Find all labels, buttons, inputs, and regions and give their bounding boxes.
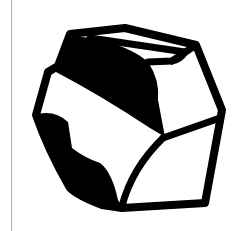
rock-icon-container <box>0 0 240 231</box>
rock-icon <box>0 0 240 231</box>
rock-edge-to-right <box>163 118 220 138</box>
rock-edge-to-bottom <box>122 138 163 206</box>
rock-dark-facet-top <box>56 36 165 137</box>
